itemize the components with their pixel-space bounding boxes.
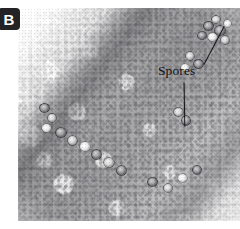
spore [204,22,213,30]
spores-label: Spores [158,64,195,78]
spore [174,108,183,116]
spore [193,166,201,174]
spore [212,16,220,23]
spore [56,128,66,137]
spore [42,124,51,132]
spore [148,178,157,186]
spore [92,150,101,159]
spore [164,184,172,192]
spore [221,36,229,44]
spore [178,174,187,182]
spore [68,136,77,145]
spore [117,166,126,175]
spore [198,32,206,39]
spore [224,20,231,27]
spore [104,158,114,167]
spore [40,104,49,112]
micrograph-image [18,8,240,221]
spore [186,52,194,60]
spore [48,114,56,122]
spore [80,142,90,151]
micrograph-plate [18,8,240,221]
panel-letter-badge: B [0,8,20,30]
figure-root: Spores B [0,0,240,229]
